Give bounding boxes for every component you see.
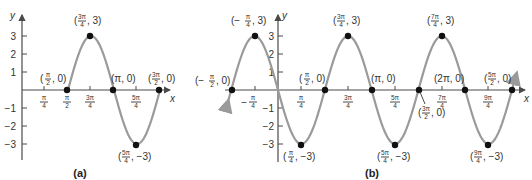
svg-text:, 0): , 0) [497,73,511,84]
svg-text:(: ( [40,73,44,84]
svg-text:−2: −2 [5,121,17,132]
svg-text:, 0): , 0) [431,107,445,118]
x-axis-label-b: x [523,93,530,104]
svg-text:2: 2 [10,49,16,60]
svg-text:π: π [246,13,251,20]
svg-text:2: 2 [210,81,214,88]
svg-text:9π: 9π [474,149,483,156]
svg-text:4: 4 [433,21,437,28]
svg-text:, 3): , 3) [440,15,454,26]
svg-text:3π: 3π [152,71,161,78]
svg-text:, 3): , 3) [346,15,360,26]
svg-text:, −3): , −3) [390,151,410,162]
point-labels-a: ( π 2 , 0) ( 3π 4 , 3) (π, 0) ( 3π 2 , 0… [40,13,175,164]
svg-text:2: 2 [46,79,50,86]
svg-text:π: π [46,71,51,78]
panel-a: y x 3 2 1 −1 −2 −3 π 4 π [5,10,176,179]
svg-text:−: − [241,97,247,108]
svg-text:2: 2 [424,113,428,120]
svg-text:4: 4 [346,102,350,109]
svg-text:4: 4 [88,102,92,109]
svg-text:3π: 3π [422,105,431,112]
svg-text:, −3): , −3) [295,151,315,162]
svg-text:, −3): , −3) [483,151,503,162]
svg-text:4: 4 [246,21,250,28]
svg-text:4: 4 [339,21,343,28]
svg-text:(−: (− [231,15,240,26]
svg-text:3: 3 [268,31,274,42]
svg-text:, 0): , 0) [161,73,175,84]
svg-text:−1: −1 [263,103,275,114]
caption-a: (a) [73,167,87,179]
svg-text:2: 2 [65,102,69,109]
svg-text:4: 4 [80,21,84,28]
svg-text:4: 4 [42,102,46,109]
svg-text:, 0): , 0) [52,73,66,84]
svg-text:3: 3 [10,31,16,42]
svg-text:π: π [251,94,256,101]
svg-text:, 3): , 3) [87,15,101,26]
svg-text:3π: 3π [337,13,346,20]
svg-text:4: 4 [383,157,387,164]
svg-text:1: 1 [10,67,16,78]
svg-text:(: ( [283,151,287,162]
svg-text:4: 4 [251,102,255,109]
x-axis-label-a: x [169,93,176,104]
svg-text:4: 4 [476,157,480,164]
svg-text:(2π, 0): (2π, 0) [434,73,464,84]
svg-text:(−: (− [195,75,204,86]
svg-text:4: 4 [393,102,397,109]
svg-text:4: 4 [134,102,138,109]
sinusoid-figure: y x 3 2 1 −1 −2 −3 π 4 π [0,0,532,180]
caption-b: (b) [365,167,379,179]
svg-text:4: 4 [289,157,293,164]
svg-text:π: π [210,73,215,80]
svg-text:5π: 5π [488,71,497,78]
svg-text:3π: 3π [86,94,95,101]
svg-text:−3: −3 [263,139,275,150]
svg-text:, −3): , −3) [131,151,151,162]
svg-text:−2: −2 [263,121,275,132]
svg-text:π: π [42,94,47,101]
svg-text:π: π [289,149,294,156]
svg-text:4: 4 [124,157,128,164]
svg-text:−1: −1 [5,103,17,114]
svg-text:5π: 5π [122,149,131,156]
svg-text:5π: 5π [381,149,390,156]
y-axis-label-a: y [9,10,16,21]
svg-text:7π: 7π [431,13,440,20]
svg-text:(π, 0): (π, 0) [371,73,396,84]
svg-text:π: π [305,71,310,78]
svg-text:3π: 3π [344,94,353,101]
svg-text:7π: 7π [438,94,447,101]
svg-text:2: 2 [490,79,494,86]
svg-text:5π: 5π [132,94,141,101]
svg-text:2: 2 [305,79,309,86]
svg-text:4: 4 [486,102,490,109]
svg-text:, 0): , 0) [216,75,230,86]
svg-text:, 0): , 0) [311,73,325,84]
svg-text:2: 2 [154,79,158,86]
svg-text:3π: 3π [78,13,87,20]
svg-text:−3: −3 [5,139,17,150]
svg-text:π: π [65,94,70,101]
svg-text:(: ( [299,73,303,84]
svg-text:9π: 9π [484,94,493,101]
svg-text:4: 4 [299,102,303,109]
svg-text:, 3): , 3) [252,15,266,26]
y-axis-label-b: y [281,10,288,21]
svg-text:5π: 5π [391,94,400,101]
svg-text:π: π [299,94,304,101]
svg-text:(π, 0): (π, 0) [111,73,136,84]
panel-b: y x 3 2 1 −1 −2 −3 − π 4 [195,10,530,179]
